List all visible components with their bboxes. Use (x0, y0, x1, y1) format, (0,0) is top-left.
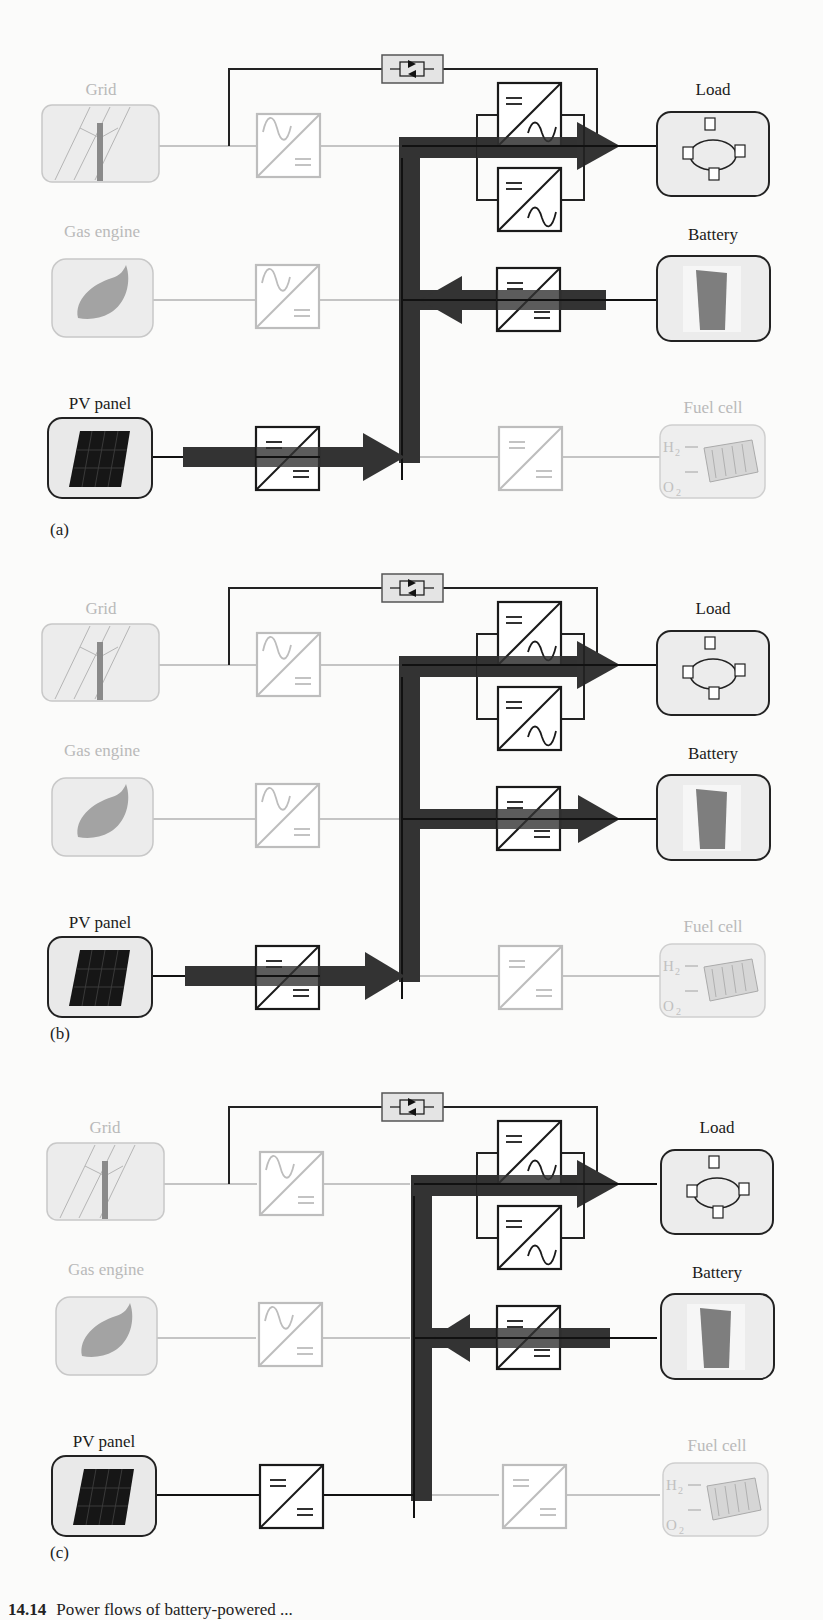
svg-text:H: H (663, 958, 674, 974)
gas-engine-icon (52, 259, 153, 337)
battery-icon (661, 1294, 774, 1379)
svg-text:2: 2 (676, 487, 681, 498)
diagram-c: H2 O2 (0, 1038, 823, 1558)
battery-label: Battery (688, 744, 738, 764)
grid-label: Grid (85, 599, 116, 619)
svg-text:2: 2 (675, 447, 680, 458)
fuel-cell-icon: H 2 O 2 (660, 425, 765, 498)
gas-engine-icon (52, 778, 153, 856)
pv-panel-icon (48, 418, 152, 498)
thyristor-switch-icon (382, 1093, 443, 1121)
load-label: Load (696, 80, 731, 100)
caption-number: 14.14 (8, 1600, 46, 1619)
pv-panel-icon (52, 1456, 156, 1536)
grid-icon (42, 624, 159, 701)
grid-icon (47, 1143, 164, 1220)
diagram-a: H 2 O 2 (0, 0, 823, 520)
svg-text:H: H (666, 1477, 677, 1493)
panel-b: H2 O2 Grid Gas engine PV panel Load Batt… (0, 519, 823, 1039)
grid-label: Grid (85, 80, 116, 100)
fuel-cell-icon: H2 O2 (663, 1463, 768, 1536)
panel-a: H 2 O 2 Grid Gas engine PV panel Load Ba… (0, 0, 823, 520)
load-network-icon (661, 1150, 773, 1234)
thyristor-switch-icon (382, 55, 443, 83)
svg-text:O: O (666, 1517, 677, 1533)
svg-text:2: 2 (676, 1006, 681, 1017)
load-inverter-2 (498, 168, 561, 231)
svg-text:2: 2 (675, 966, 680, 977)
load-network-icon (657, 112, 769, 196)
load-network-icon (657, 631, 769, 715)
gas-engine-label: Gas engine (64, 222, 140, 242)
pv-panel-icon (48, 937, 152, 1017)
svg-text:2: 2 (678, 1485, 683, 1496)
caption-text: Power flows of battery-powered ... (56, 1600, 293, 1619)
panel-c: H2 O2 Grid Gas engine PV panel Load Batt… (0, 1038, 823, 1558)
pv-panel-label: PV panel (69, 913, 132, 933)
figure-caption: 14.14Power flows of battery-powered ... (8, 1600, 293, 1620)
battery-icon (657, 775, 770, 860)
svg-text:O: O (663, 998, 674, 1014)
fuel-converter (499, 427, 562, 490)
fuel-cell-label: Fuel cell (687, 1436, 746, 1456)
gas-engine-label: Gas engine (64, 741, 140, 761)
load-label: Load (700, 1118, 735, 1138)
pv-panel-label: PV panel (73, 1432, 136, 1452)
load-label: Load (696, 599, 731, 619)
gas-converter (256, 265, 319, 328)
grid-converter (257, 114, 320, 177)
fuel-cell-label: Fuel cell (683, 398, 742, 418)
fuel-cell-label: Fuel cell (683, 917, 742, 937)
pv-panel-label: PV panel (69, 394, 132, 414)
battery-label: Battery (692, 1263, 742, 1283)
battery-icon (657, 256, 770, 341)
fuel-cell-icon: H2 O2 (660, 944, 765, 1017)
svg-text:2: 2 (679, 1525, 684, 1536)
gas-engine-icon (56, 1297, 157, 1375)
panel-tag: (c) (50, 1543, 69, 1563)
load-inverter-1 (498, 83, 561, 146)
grid-label: Grid (89, 1118, 120, 1138)
svg-text:O: O (663, 479, 674, 495)
thyristor-switch-icon (382, 574, 443, 602)
gas-engine-label: Gas engine (68, 1260, 144, 1280)
grid-icon (42, 105, 159, 182)
svg-text:H: H (663, 439, 674, 455)
battery-label: Battery (688, 225, 738, 245)
diagram-b: H2 O2 (0, 519, 823, 1039)
